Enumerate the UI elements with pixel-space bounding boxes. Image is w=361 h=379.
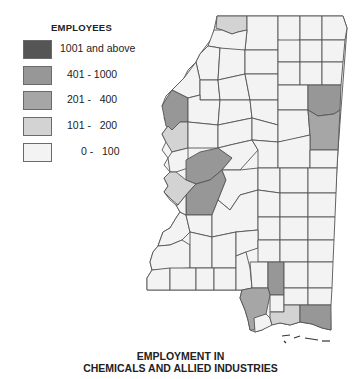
county: [308, 288, 332, 305]
barrier-island: [284, 341, 286, 343]
barrier-island: [282, 335, 290, 336]
county: [278, 16, 300, 42]
county: [258, 240, 280, 262]
county: [200, 80, 220, 100]
county: [254, 314, 272, 332]
county: [308, 193, 336, 217]
county: [308, 110, 340, 150]
county: [196, 268, 214, 290]
county: [284, 288, 308, 305]
mississippi-county-map: [0, 0, 361, 379]
county: [170, 268, 196, 290]
county: [308, 262, 333, 288]
county: [188, 122, 218, 148]
county: [280, 168, 308, 193]
county: [280, 193, 308, 217]
county: [310, 150, 338, 168]
county: [212, 232, 236, 268]
county: [308, 217, 335, 240]
county: [278, 85, 308, 110]
county: [245, 16, 278, 50]
county: [300, 16, 322, 40]
county: [300, 305, 331, 330]
county: [258, 217, 280, 240]
county: [308, 168, 337, 193]
map-caption-line-2: CHEMICALS AND ALLIED INDUSTRIES: [0, 362, 361, 374]
county: [322, 62, 343, 85]
barrier-island: [305, 338, 318, 340]
barrier-island: [294, 336, 300, 338]
county: [147, 268, 170, 290]
county: [284, 262, 308, 288]
county: [268, 262, 284, 295]
county: [250, 262, 268, 288]
county: [300, 40, 322, 62]
county: [270, 295, 284, 312]
county: [308, 85, 341, 116]
county: [214, 268, 236, 290]
county: [196, 46, 220, 80]
county: [280, 217, 308, 240]
county: [245, 50, 278, 74]
county: [258, 190, 280, 217]
county: [245, 74, 278, 100]
county: [190, 232, 212, 268]
county: [280, 240, 308, 262]
county: [258, 168, 280, 193]
map-caption-line-1: EMPLOYMENT IN: [0, 350, 361, 362]
county: [278, 62, 300, 85]
county: [300, 62, 322, 85]
county: [322, 16, 347, 40]
county: [322, 40, 345, 62]
county: [278, 40, 300, 62]
county: [308, 240, 334, 262]
